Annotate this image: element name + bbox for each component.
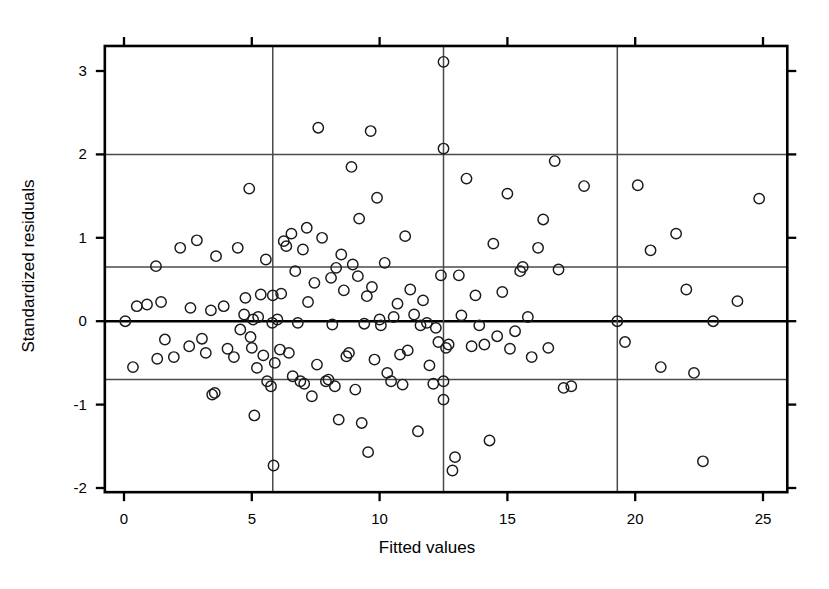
x-tick-label: 0 <box>120 510 128 527</box>
plot-canvas: 0510152025 3210-1-2 Fitted values Standa… <box>0 0 829 589</box>
y-tick-label: -2 <box>73 479 86 496</box>
y-tick-label: 1 <box>78 229 86 246</box>
y-axis-label: Standardized residuals <box>19 180 38 353</box>
x-tick-label: 5 <box>248 510 256 527</box>
x-tick-label: 20 <box>627 510 644 527</box>
x-tick-label: 15 <box>499 510 516 527</box>
y-tick-label: 2 <box>78 145 86 162</box>
x-tick-label: 10 <box>371 510 388 527</box>
x-axis-label: Fitted values <box>379 538 475 557</box>
y-tick-label: -1 <box>73 396 86 413</box>
x-tick-label: 25 <box>755 510 772 527</box>
y-tick-label: 0 <box>78 312 86 329</box>
y-tick-label: 3 <box>78 62 86 79</box>
scatter-plot-figure: 0510152025 3210-1-2 Fitted values Standa… <box>0 0 829 589</box>
